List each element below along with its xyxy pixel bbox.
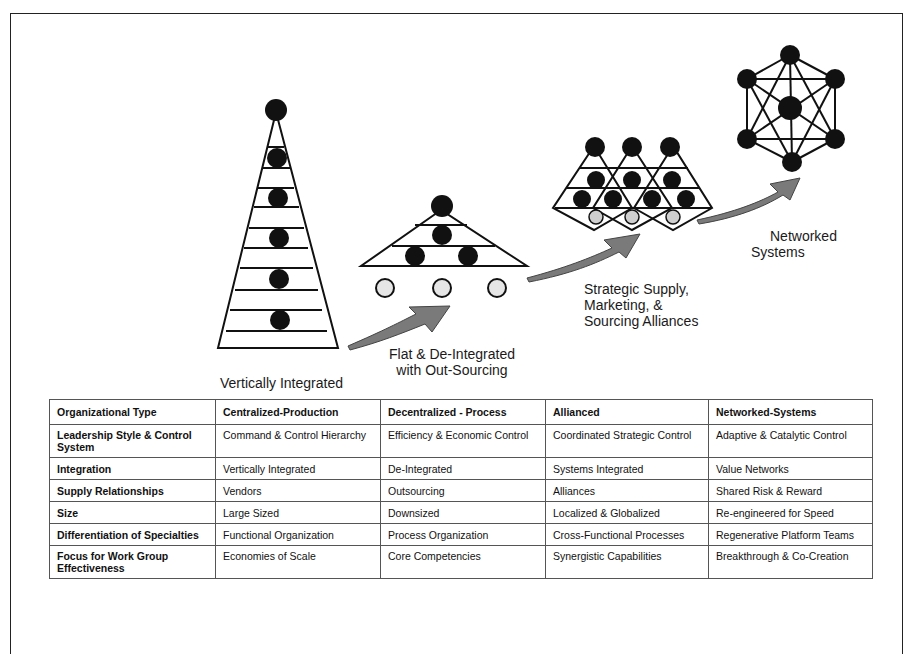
table-row: Differentiation of Specialties Functiona… (50, 524, 873, 546)
row-label: Differentiation of Specialties (50, 524, 216, 546)
table-row: Size Large Sized Downsized Localized & G… (50, 502, 873, 524)
label-line: Strategic Supply, (584, 281, 698, 297)
row-label: Focus for Work Group Effectiveness (50, 546, 216, 579)
label-line: Marketing, & (584, 297, 698, 313)
table-cell: Large Sized (216, 502, 381, 524)
table-cell: Value Networks (709, 458, 873, 480)
table-cell: Command & Control Hierarchy (216, 425, 381, 458)
table-cell: Re-engineered for Speed (709, 502, 873, 524)
row-label: Supply Relationships (50, 480, 216, 502)
label-line: Systems (751, 244, 837, 260)
table-header: Networked-Systems (709, 400, 873, 425)
table-header: Decentralized - Process (381, 400, 546, 425)
table-cell: Regenerative Platform Teams (709, 524, 873, 546)
label-flat-deintegrated: Flat & De-Integrated with Out-Sourcing (372, 346, 532, 378)
outsource-nodes (376, 279, 506, 297)
table-cell: Economies of Scale (216, 546, 381, 579)
table-cell: Localized & Globalized (546, 502, 709, 524)
table-header: Organizational Type (50, 400, 216, 425)
arrow-1-icon (348, 306, 450, 350)
table-cell: Core Competencies (381, 546, 546, 579)
table-header: Centralized-Production (216, 400, 381, 425)
row-label: Leadership Style & Control System (50, 425, 216, 458)
table-cell: Systems Integrated (546, 458, 709, 480)
table-cell: Coordinated Strategic Control (546, 425, 709, 458)
label-strategic-alliances: Strategic Supply, Marketing, & Sourcing … (584, 281, 698, 329)
table-cell: Shared Risk & Reward (709, 480, 873, 502)
table-cell: Outsourcing (381, 480, 546, 502)
table-cell: Efficiency & Economic Control (381, 425, 546, 458)
label-networked-systems: Networked Systems (751, 228, 837, 260)
table-cell: Synergistic Capabilities (546, 546, 709, 579)
table-cell: Process Organization (381, 524, 546, 546)
table-cell: Vertically Integrated (216, 458, 381, 480)
arrow-2-icon (527, 234, 640, 282)
label-line: Flat & De-Integrated (372, 346, 532, 362)
table-cell: Functional Organization (216, 524, 381, 546)
label-line: with Out-Sourcing (372, 362, 532, 378)
row-label: Size (50, 502, 216, 524)
table-header-row: Organizational Type Centralized-Producti… (50, 400, 873, 425)
table-header: Allianced (546, 400, 709, 425)
label-line: Sourcing Alliances (584, 313, 698, 329)
row-label: Integration (50, 458, 216, 480)
table-cell: Downsized (381, 502, 546, 524)
organization-comparison-table: Organizational Type Centralized-Producti… (49, 399, 873, 579)
table-cell: Adaptive & Catalytic Control (709, 425, 873, 458)
label-line: Networked (751, 228, 837, 244)
table-cell: Vendors (216, 480, 381, 502)
network-nodes (737, 45, 845, 172)
table-row: Focus for Work Group Effectiveness Econo… (50, 546, 873, 579)
table-cell: Breakthrough & Co-Creation (709, 546, 873, 579)
arrow-3-icon (697, 178, 800, 224)
table-cell: De-Integrated (381, 458, 546, 480)
evolution-diagram (0, 0, 914, 400)
table-row: Leadership Style & Control System Comman… (50, 425, 873, 458)
table-cell: Cross-Functional Processes (546, 524, 709, 546)
label-vertically-integrated: Vertically Integrated (220, 375, 343, 391)
table-row: Supply Relationships Vendors Outsourcing… (50, 480, 873, 502)
table-cell: Alliances (546, 480, 709, 502)
table-row: Integration Vertically Integrated De-Int… (50, 458, 873, 480)
